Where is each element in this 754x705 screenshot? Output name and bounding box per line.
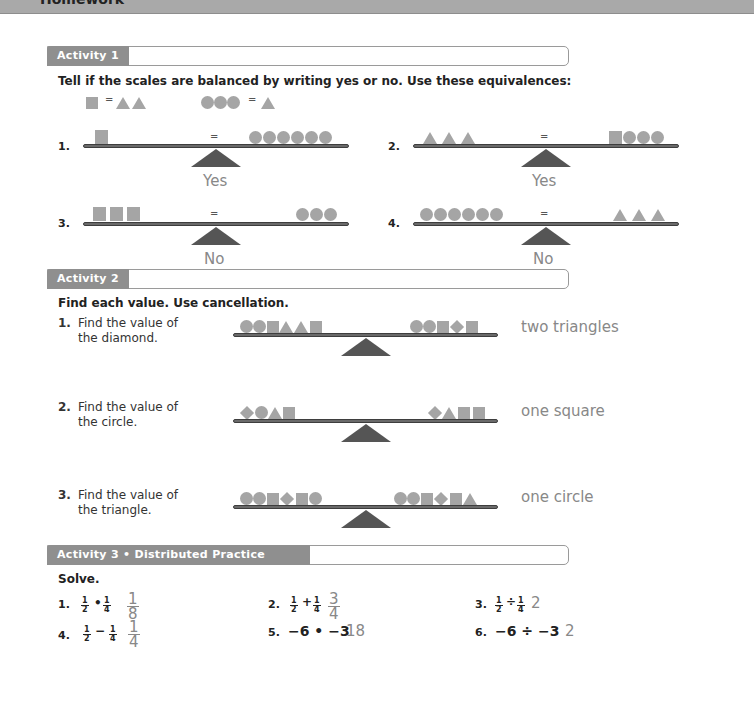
square-icon <box>93 207 106 221</box>
answer: 2 <box>531 594 541 612</box>
circle-icon <box>255 406 268 419</box>
square-icon <box>283 407 295 419</box>
fraction: 12 <box>83 626 91 643</box>
diamond-icon <box>428 406 442 420</box>
circle-icon <box>462 208 475 221</box>
triangle-icon <box>268 407 282 419</box>
activity-3-header: Activity 3 • Distributed Practice <box>47 545 569 565</box>
answer: Yes <box>532 172 556 190</box>
homework-banner: Homework <box>0 0 754 14</box>
square-icon <box>473 407 485 419</box>
square-icon <box>466 321 478 333</box>
square-icon <box>267 321 279 333</box>
circle-icon <box>227 96 240 109</box>
triangle-icon <box>442 407 456 419</box>
fraction: 12 <box>81 597 89 614</box>
circle-icon <box>291 131 304 144</box>
answer: No <box>204 250 224 268</box>
triangle-icon <box>613 209 627 221</box>
answer: one circle <box>521 488 594 506</box>
fulcrum-icon <box>521 149 571 167</box>
answer: one square <box>521 402 605 420</box>
item-number: 3. <box>58 217 70 230</box>
fraction: 14 <box>517 597 525 614</box>
problem-3: 3. 12 ÷ 14 2 <box>475 592 625 622</box>
circle-icon <box>319 131 332 144</box>
fulcrum-icon <box>521 227 571 245</box>
circle-icon <box>448 208 461 221</box>
activity-1-tab: Activity 1 <box>47 46 129 66</box>
answer: 18 <box>346 622 365 640</box>
circle-icon <box>277 131 290 144</box>
circle-icon <box>423 320 436 333</box>
scale-beam <box>233 333 498 337</box>
diamond-icon <box>280 492 294 506</box>
problem-label: 3.Find the value of the triangle. <box>58 488 178 518</box>
square-icon <box>310 321 322 333</box>
circle-icon <box>490 208 503 221</box>
circle-icon <box>410 320 423 333</box>
circle-icon <box>253 320 266 333</box>
circle-icon <box>253 492 266 505</box>
triangle-icon <box>132 97 146 109</box>
circle-icon <box>476 208 489 221</box>
fulcrum-icon <box>341 424 391 442</box>
square-icon <box>450 493 462 505</box>
triangle-icon <box>116 97 130 109</box>
square-icon <box>110 207 123 221</box>
diamond-icon <box>450 320 464 334</box>
problem-label: 1.Find the value of the diamond. <box>58 316 178 346</box>
circle-icon <box>249 131 262 144</box>
problem-4: 4. 12 − 14 14 <box>58 623 258 653</box>
fulcrum-icon <box>191 227 241 245</box>
fulcrum-icon <box>341 510 391 528</box>
scale-beam <box>233 505 498 509</box>
activity-3-instruction: Solve. <box>58 572 100 586</box>
square-icon <box>86 97 98 109</box>
square-icon <box>458 407 470 419</box>
square-icon <box>421 493 433 505</box>
problem-2: 2. 12 + 14 34 <box>268 592 468 622</box>
square-icon <box>127 207 140 221</box>
item-number: 2. <box>388 140 400 153</box>
activity-1-header: Activity 1 <box>47 46 569 66</box>
scale-beam <box>83 222 349 226</box>
square-icon <box>95 130 108 144</box>
triangle-icon <box>463 493 477 505</box>
activity-1-instruction: Tell if the scales are balanced by writi… <box>58 74 571 88</box>
fulcrum-icon <box>341 338 391 356</box>
activity-2-instruction: Find each value. Use cancellation. <box>58 296 289 310</box>
fraction: 14 <box>109 626 117 643</box>
triangle-icon <box>461 132 475 144</box>
activity-2-header: Activity 2 <box>47 269 569 289</box>
circle-icon <box>240 492 253 505</box>
square-icon <box>296 493 308 505</box>
fulcrum-icon <box>191 149 241 167</box>
answer: Yes <box>203 172 227 190</box>
item-number: 1. <box>58 140 70 153</box>
problem-label: 2.Find the value of the circle. <box>58 400 178 430</box>
circle-icon <box>263 131 276 144</box>
fraction: 12 <box>290 597 298 614</box>
circle-icon <box>309 492 322 505</box>
problem-1: 1. 12 • 14 18 <box>58 592 258 622</box>
circle-icon <box>214 96 227 109</box>
fraction: 12 <box>495 597 503 614</box>
fraction: 14 <box>103 597 111 614</box>
diamond-icon <box>240 406 254 420</box>
problem-5: 5. −6 • −3 18 <box>268 623 468 653</box>
square-icon <box>609 131 622 144</box>
square-icon <box>267 493 279 505</box>
circle-icon <box>240 320 253 333</box>
answer: 18 <box>127 592 139 621</box>
circle-icon <box>434 208 447 221</box>
circle-icon <box>296 208 309 221</box>
scale-beam <box>413 144 679 148</box>
square-icon <box>437 321 449 333</box>
triangle-icon <box>279 321 293 333</box>
triangle-icon <box>442 132 456 144</box>
item-number: 4. <box>388 217 400 230</box>
triangle-icon <box>261 97 275 109</box>
banner-title: Homework <box>40 0 124 7</box>
circle-icon <box>637 131 650 144</box>
